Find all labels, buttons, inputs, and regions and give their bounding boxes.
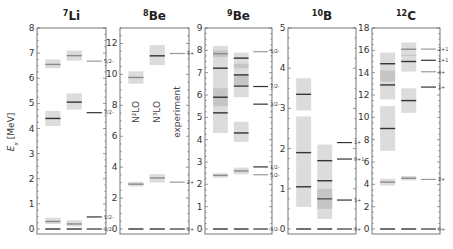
spin-parity-label: 3/2-: [270, 226, 280, 232]
spin-parity-label: 0+: [438, 226, 445, 232]
y-tick-label: 7: [197, 68, 203, 78]
y-tick-label: 4: [112, 162, 118, 172]
n2lo-uncertainty-band: [380, 53, 395, 82]
spin-parity-label: 4+: [187, 50, 194, 56]
panel-7li: 7Li0123456783/2-1/2-7/2-5/2-: [29, 9, 114, 234]
y-tick-label: 0: [112, 224, 118, 234]
y-tick-label: 2: [197, 179, 203, 189]
n3lo-uncertainty-band: [317, 145, 332, 173]
level-scheme-figure: Ex [MeV]7Li0123456783/2-1/2-7/2-5/2-8Be0…: [0, 0, 453, 249]
y-tick-label: 0: [364, 224, 370, 234]
panel-8be: 8Be0246810120+2+4+N²LON³LOexperiment: [106, 9, 194, 234]
y-tick-label: 1: [280, 184, 286, 194]
column-label: experiment: [172, 86, 182, 138]
y-axis-label: Ex [MeV]: [6, 113, 19, 152]
n3lo-uncertainty-band: [234, 122, 249, 142]
spin-parity-label: 1+1: [438, 57, 449, 63]
panel-12c: 12C0246810121416180+2+1+4+1+12+1: [358, 9, 448, 234]
y-tick-label: 7: [29, 48, 35, 58]
level-scheme-chart: Ex [MeV]7Li0123456783/2-1/2-7/2-5/2-8Be0…: [0, 0, 453, 249]
y-tick-label: 2: [280, 144, 286, 154]
y-tick-label: 0: [29, 224, 35, 234]
spin-parity-label: 2+: [438, 176, 445, 182]
y-tick-label: 14: [358, 68, 370, 78]
spin-parity-label: 7/2-: [270, 83, 280, 89]
spin-parity-label: 1+: [354, 139, 361, 145]
spin-parity-label: 5/2-: [104, 58, 114, 64]
spin-parity-label: 2+1: [438, 46, 449, 52]
y-tick-label: 6: [112, 131, 118, 141]
column-label: N³LO: [152, 101, 162, 123]
y-tick-label: 4: [29, 124, 35, 134]
n3lo-uncertainty-band: [317, 173, 332, 209]
y-tick-label: 0: [197, 224, 203, 234]
y-tick-label: 3: [29, 149, 35, 159]
panel-9be: 9Be01234567893/2-5/2-1/2-3/2-7/2-5/2-: [197, 9, 280, 234]
spin-parity-label: 3/2-: [270, 101, 280, 107]
y-tick-label: 1: [197, 202, 203, 212]
spin-parity-label: 0+: [187, 226, 194, 232]
y-tick-label: 18: [358, 23, 370, 33]
y-tick-label: 2: [29, 174, 35, 184]
spin-parity-label: 5/2-: [270, 172, 280, 178]
y-tick-label: 3: [197, 157, 203, 167]
y-tick-label: 6: [197, 90, 203, 100]
y-tick-label: 4: [280, 63, 286, 73]
y-tick-label: 12: [358, 90, 369, 100]
y-tick-label: 3: [280, 103, 286, 113]
spin-parity-label: 5/2-: [270, 48, 280, 54]
n3lo-uncertainty-band: [150, 45, 165, 65]
panel-title: 7Li: [63, 9, 80, 23]
column-label: N²LO: [131, 101, 141, 123]
spin-parity-label: 1+: [354, 197, 361, 203]
y-tick-label: 5: [197, 112, 203, 122]
y-tick-label: 8: [364, 135, 370, 145]
spin-parity-label: 1/2-: [270, 164, 280, 170]
y-tick-label: 10: [106, 69, 118, 79]
panel-title: 12C: [396, 9, 416, 23]
y-tick-label: 0: [280, 224, 286, 234]
n3lo-uncertainty-band: [401, 55, 416, 72]
panel-title: 10B: [312, 9, 332, 23]
y-tick-label: 2: [112, 193, 118, 203]
spin-parity-label: 2+: [187, 179, 194, 185]
y-tick-label: 16: [358, 45, 370, 55]
spin-parity-label: 3+: [354, 226, 361, 232]
spin-parity-label: 1/2-: [104, 214, 114, 220]
y-tick-label: 9: [197, 23, 203, 33]
y-tick-label: 8: [197, 45, 203, 55]
y-tick-label: 10: [358, 112, 370, 122]
y-tick-label: 5: [29, 98, 35, 108]
y-tick-label: 8: [29, 23, 35, 33]
y-tick-label: 6: [364, 157, 370, 167]
y-tick-label: 5: [280, 23, 286, 33]
panel-title: 8Be: [143, 9, 166, 23]
y-tick-label: 2: [364, 202, 370, 212]
spin-parity-label: 7/2-: [104, 109, 114, 115]
panel-10b: 10B0123453+1+0+11+: [280, 9, 365, 234]
y-tick-label: 8: [112, 100, 118, 110]
y-tick-label: 6: [29, 73, 35, 83]
n2lo-uncertainty-band: [296, 116, 311, 166]
y-tick-label: 1: [29, 199, 35, 209]
y-tick-label: 4: [364, 179, 370, 189]
n3lo-uncertainty-band: [234, 53, 249, 69]
panel-title: 9Be: [227, 9, 250, 23]
spin-parity-label: 1+: [438, 84, 445, 90]
y-tick-label: 4: [197, 135, 203, 145]
spin-parity-label: 4+: [438, 69, 445, 75]
y-tick-label: 12: [106, 38, 117, 48]
